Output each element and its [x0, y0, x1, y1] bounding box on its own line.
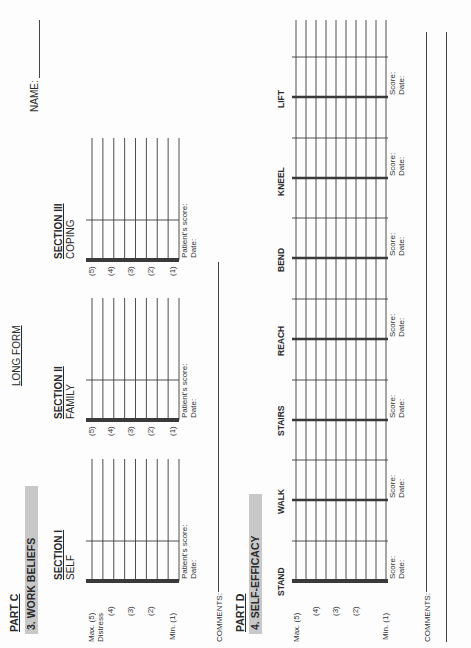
activity-kneel: KNEEL [276, 167, 286, 196]
part-d-scale-2: (2) [351, 606, 360, 616]
section-ii-scale-1: (1) [168, 426, 177, 436]
part-d-scale-min: Min. (1) [381, 613, 390, 640]
part-c-comments-line[interactable] [218, 262, 219, 592]
section-ii-scale-3: (3) [126, 426, 135, 436]
section-i-scale-2: (2) [146, 606, 155, 616]
section-i-scale-4: (4) [106, 606, 115, 616]
section-ii-scale-4: (4) [106, 426, 115, 436]
section-iii-scale-3: (3) [126, 266, 135, 276]
activity-stairs: STAIRS [276, 405, 286, 436]
part-d-scale-max: Max. (5) [292, 613, 301, 642]
bend-score-label: Score: [388, 233, 397, 256]
stand-date-label: Date: [397, 560, 406, 579]
part-d-scale-3: (3) [331, 606, 340, 616]
section-ii-scale-2: (2) [146, 426, 155, 436]
part-d-comments-line-2[interactable] [446, 32, 447, 642]
section-iii-scale-1: (1) [168, 266, 177, 276]
stairs-date-label: Date: [397, 399, 406, 418]
bend-date-label: Date: [397, 237, 406, 256]
section-i-date-label: Date: [189, 560, 198, 579]
walk-score-label: Score: [388, 475, 397, 498]
activity-walk: WALK [276, 489, 286, 514]
stairs-score-label: Score: [388, 395, 397, 418]
section-i-scale-min: Min. (1) [168, 613, 177, 640]
section-iii-score-label: Patient's score: [180, 204, 189, 258]
activity-lift: LIFT [276, 90, 286, 108]
self-efficacy-title: 4. SELF-EFFICACY [249, 494, 262, 634]
section-iii-scale-2: (2) [146, 266, 155, 276]
activity-reach: REACH [276, 326, 286, 356]
kneel-score-label: Score: [388, 153, 397, 176]
stand-score-label: Score: [388, 556, 397, 579]
part-d-comments-label: COMMENTS: [423, 593, 432, 642]
section-i-scale-max: Max. (5) [87, 613, 96, 642]
rotated-form-page: PART C 3. WORK BELIEFS LONG FORM NAME: S… [0, 0, 471, 648]
reach-score-label: Score: [388, 314, 397, 337]
section-i-scale-distress: Distress [96, 613, 105, 642]
section-ii-date-label: Date: [189, 399, 198, 418]
activity-stand: STAND [276, 567, 286, 596]
part-c-comments-label: COMMENTS: [215, 593, 224, 642]
walk-date-label: Date: [397, 479, 406, 498]
section-iii-scale-5: (5) [87, 266, 96, 276]
lift-score-label: Score: [388, 72, 397, 95]
section-i-score-label: Patient's score: [180, 525, 189, 579]
reach-date-label: Date: [397, 318, 406, 337]
section-iii-date-label: Date: [189, 239, 198, 258]
section-i-scale-3: (3) [126, 606, 135, 616]
section-ii-score-label: Patient's score: [180, 364, 189, 418]
part-d-label: PART D [234, 594, 246, 632]
kneel-date-label: Date: [397, 157, 406, 176]
section-ii-scale-5: (5) [87, 426, 96, 436]
section-iii-scale-4: (4) [106, 266, 115, 276]
part-d-comments-line-1[interactable] [426, 32, 427, 592]
lift-date-label: Date: [397, 76, 406, 95]
activity-bend: BEND [276, 248, 286, 272]
part-d-scale-4: (4) [311, 606, 320, 616]
